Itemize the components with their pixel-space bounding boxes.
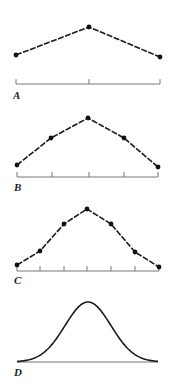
normal-curve: [17, 302, 158, 361]
panel-label-a: A: [13, 90, 20, 101]
panel-c: [15, 207, 162, 271]
panel-label-c: C: [14, 275, 21, 286]
data-point: [86, 116, 91, 121]
diagram-canvas: [0, 0, 176, 387]
panel-b: [15, 116, 161, 177]
data-point: [87, 25, 92, 30]
panel-label-b: B: [14, 182, 21, 193]
polygon-line: [17, 118, 158, 167]
panel-d: [17, 302, 158, 362]
data-point: [133, 250, 138, 255]
data-point: [158, 55, 163, 60]
data-point: [38, 249, 43, 254]
data-point: [15, 263, 20, 268]
data-point: [122, 136, 127, 141]
data-point: [49, 136, 54, 141]
panel-label-d: D: [14, 367, 22, 378]
data-point: [62, 222, 67, 227]
data-point: [157, 265, 162, 270]
panel-a: [14, 25, 163, 84]
polygon-line: [16, 27, 160, 57]
data-point: [109, 222, 114, 227]
data-point: [85, 207, 90, 212]
data-point: [156, 165, 161, 170]
polygon-line: [17, 209, 159, 267]
data-point: [15, 163, 20, 168]
data-point: [14, 53, 19, 58]
